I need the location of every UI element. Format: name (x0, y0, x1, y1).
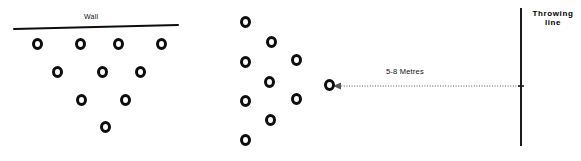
drill-diagram: Wall 5-8 Metres Throwing line (0, 0, 581, 161)
distance-label: 5-8 Metres (386, 68, 424, 77)
throwing-line-label: Throwing line (527, 9, 579, 27)
throwing-line-label-row2: line (527, 18, 579, 27)
thrower-marker (324, 79, 335, 91)
player-marker (97, 66, 108, 78)
player-marker (120, 94, 131, 106)
wall-line (14, 25, 178, 29)
player-marker (291, 93, 302, 105)
player-marker (76, 94, 87, 106)
throwing-line-label-row1: Throwing (527, 9, 579, 18)
player-marker (156, 38, 167, 50)
player-marker (240, 16, 251, 28)
player-marker (100, 121, 111, 133)
player-marker (291, 54, 302, 66)
player-marker (265, 114, 276, 126)
wall-label: Wall (84, 13, 98, 21)
player-marker (266, 36, 277, 48)
player-marker (240, 56, 251, 68)
diagram-vector-layer (0, 0, 581, 161)
player-marker (240, 95, 251, 107)
player-marker (75, 38, 86, 50)
player-marker (113, 38, 124, 50)
player-marker (240, 134, 251, 146)
player-marker (52, 66, 63, 78)
player-marker (264, 76, 275, 88)
player-marker (32, 38, 43, 50)
player-marker (135, 66, 146, 78)
